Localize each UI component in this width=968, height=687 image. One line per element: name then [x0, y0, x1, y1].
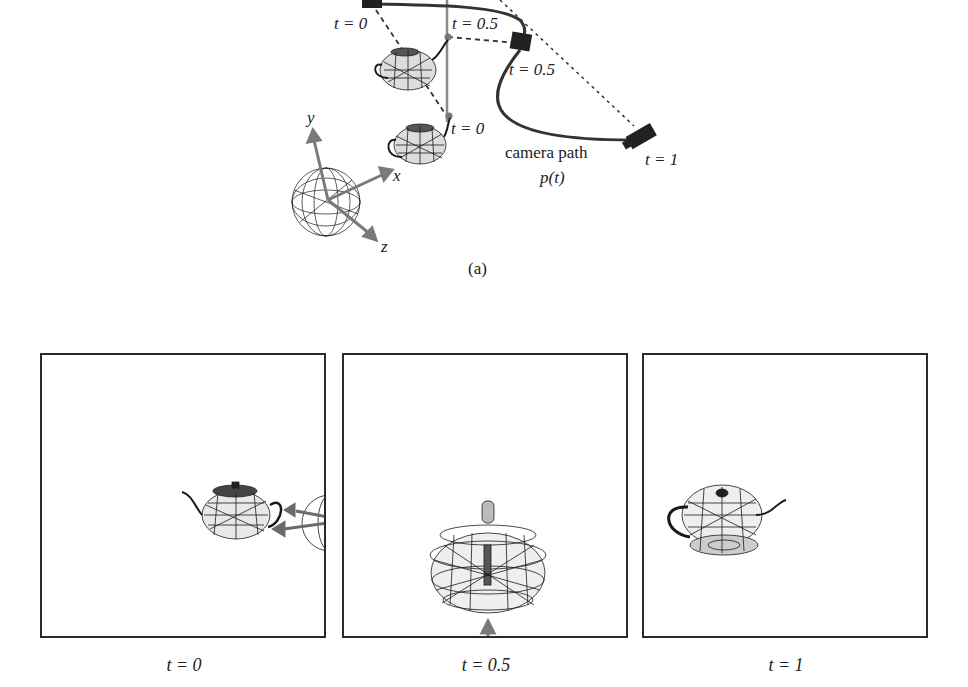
- camera-start-label: t = 0: [334, 14, 367, 34]
- camera-path-label: camera path: [505, 143, 588, 163]
- camera-icon-end: [620, 123, 656, 152]
- subfigure-caption: (a): [468, 259, 487, 279]
- teapot-view-t0: [42, 355, 326, 638]
- teapot-view-t1: [644, 355, 928, 638]
- camera-end-label: t = 1: [645, 150, 678, 170]
- camera-path-symbol: p(t): [540, 168, 565, 188]
- panel-label-t1: t = 1: [768, 655, 803, 676]
- diagram-lines: [0, 0, 968, 290]
- object-top-label: t = 0.5: [452, 14, 498, 34]
- y-axis-label: y: [307, 108, 315, 128]
- camera-icon-mid: [510, 31, 533, 51]
- teapot-top: [375, 40, 448, 90]
- teapot-view-t05: [344, 355, 628, 638]
- camera-icon-start: [362, 0, 382, 8]
- view-panel-t05: [342, 353, 628, 638]
- camera-mid-label: t = 0.5: [509, 60, 555, 80]
- panel-label-t0: t = 0: [166, 655, 201, 676]
- teapot-bottom: [388, 118, 450, 164]
- world-sphere: [292, 168, 360, 236]
- view-panel-t1: [642, 353, 928, 638]
- z-axis-label: z: [381, 237, 388, 257]
- camera-path-diagram: t = 0 t = 0.5 t = 0.5 t = 0 t = 1 camera…: [0, 0, 968, 290]
- x-axis-label: x: [393, 166, 401, 186]
- object-bottom-label: t = 0: [451, 119, 484, 139]
- panel-label-t05: t = 0.5: [462, 655, 511, 676]
- view-panel-t0: [40, 353, 326, 638]
